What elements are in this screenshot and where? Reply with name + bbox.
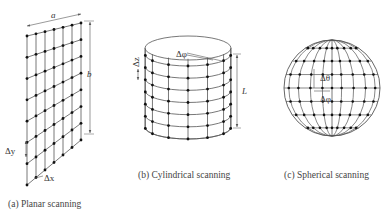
cylindrical-dz-label: Δz bbox=[131, 57, 141, 67]
scanning-geometry-figure bbox=[0, 0, 392, 218]
planar-scanning-diagram bbox=[25, 13, 94, 186]
planar-width-label-a: a bbox=[51, 10, 56, 20]
spherical-dtheta-label: Δθ bbox=[320, 73, 330, 83]
cylindrical-caption: (b) Cylindrical scanning bbox=[138, 170, 230, 180]
cylindrical-dphi-label: Δφ bbox=[176, 49, 187, 59]
spherical-caption: (c) Spherical scanning bbox=[284, 170, 369, 180]
planar-dx-label: Δx bbox=[44, 173, 54, 183]
planar-caption: (a) Planar scanning bbox=[8, 199, 81, 209]
spherical-scanning-diagram bbox=[284, 40, 380, 136]
spherical-dphi-label: Δφ bbox=[320, 94, 331, 104]
cylindrical-length-label-L: L bbox=[242, 86, 247, 96]
planar-height-label-b: b bbox=[87, 69, 92, 79]
planar-dy-label: Δy bbox=[5, 146, 15, 156]
cylindrical-scanning-diagram bbox=[137, 36, 241, 140]
